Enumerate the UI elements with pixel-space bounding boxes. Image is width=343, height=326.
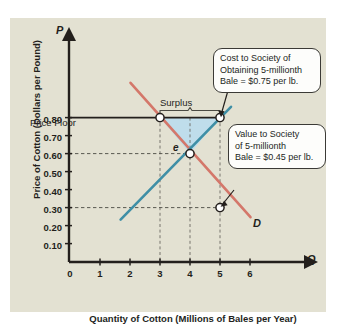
figure-root: Price of Cotton (Dollars per Pound) 0.80… <box>0 0 343 326</box>
marker-equilibrium <box>186 150 194 158</box>
chart-panel: Price of Cotton (Dollars per Pound) 0.80… <box>10 18 326 312</box>
x-axis-title: Quantity of Cotton (Millions of Bales pe… <box>68 313 318 324</box>
cost-callout-line3: Bale = $0.75 per lb. <box>220 76 315 88</box>
value-callout-line3: Bale = $0.45 per lb. <box>235 152 320 164</box>
marker-demand-at-floor <box>156 114 164 122</box>
surplus-brace <box>160 108 220 115</box>
value-to-society-callout: Value to Society of 5-millionth Bale = $… <box>228 124 326 169</box>
value-callout-line1: Value to Society <box>235 129 320 141</box>
value-callout-line2: of 5-millionth <box>235 141 320 153</box>
cost-callout-line1: Cost to Society of <box>220 53 315 65</box>
cost-to-society-callout: Cost to Society of Obtaining 5-millionth… <box>213 48 321 93</box>
cost-callout-line2: Obtaining 5-millionth <box>220 65 315 77</box>
